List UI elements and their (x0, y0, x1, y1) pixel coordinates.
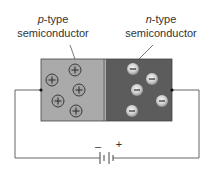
pn-junction-diagram: p-type semiconductor n-type semiconducto… (0, 0, 214, 173)
hole (69, 64, 81, 76)
n-type-label-line2: semiconductor (125, 27, 197, 39)
p-type-label: p-type (37, 13, 69, 25)
hole (70, 105, 82, 117)
left-terminal-dot (39, 88, 42, 91)
p-type-leader-line (70, 45, 75, 59)
battery-plus-label: + (116, 138, 122, 150)
battery-icon (100, 152, 113, 164)
electron (156, 95, 168, 107)
electron (146, 73, 158, 85)
hole (73, 84, 85, 96)
electron (126, 105, 138, 117)
n-type-leader-line (139, 45, 153, 59)
electron (127, 63, 139, 75)
electron (131, 84, 143, 96)
p-type-label-line2: semiconductor (17, 27, 89, 39)
battery-minus-label: – (95, 140, 102, 152)
right-terminal-dot (170, 88, 173, 91)
n-type-label: n-type (146, 13, 177, 25)
hole (46, 74, 58, 86)
hole (52, 95, 64, 107)
